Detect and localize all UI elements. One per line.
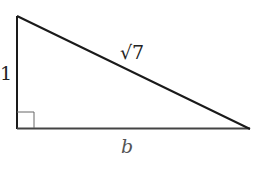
- hypotenuse: [17, 16, 250, 129]
- right-angle-marker: [17, 112, 34, 128]
- right-triangle: [17, 16, 250, 129]
- triangle-diagram: [0, 0, 274, 174]
- hypotenuse-label: √7: [120, 41, 144, 63]
- vertical-leg-label: 1: [0, 62, 12, 84]
- horizontal-leg-label: b: [121, 135, 133, 157]
